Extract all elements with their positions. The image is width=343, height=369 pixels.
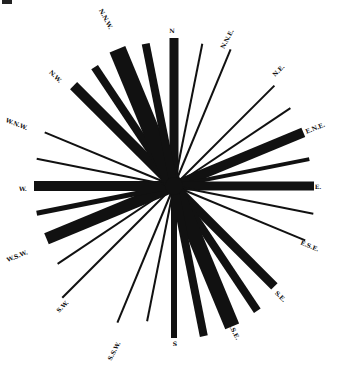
label-n: N <box>169 27 175 34</box>
label-sw: S.W. <box>55 299 70 314</box>
rose-center <box>165 177 183 195</box>
label-e: E. <box>315 183 322 190</box>
wind-ray-sbw <box>147 186 174 321</box>
wind-rays <box>34 38 314 338</box>
label-se: S.E. <box>274 289 288 303</box>
label-nnw: N.N.W. <box>98 7 115 30</box>
label-wsw: W.S.W. <box>5 248 29 263</box>
label-ne: N.E. <box>271 63 286 78</box>
label-wnw: W.N.W. <box>4 116 29 131</box>
label-ene: E.N.E. <box>304 121 326 135</box>
label-sse: S.S.E. <box>227 321 242 341</box>
label-nne: N.N.E. <box>219 28 235 50</box>
label-w: W. <box>18 185 27 192</box>
wind-rose-diagram: NN.N.E.N.E.E.N.E.E.E.S.E.S.E.S.S.E.SS.S.… <box>0 0 343 369</box>
label-s: S <box>173 340 177 347</box>
label-nw: N.W. <box>48 68 64 84</box>
label-ssw: S.S.W. <box>106 340 122 361</box>
label-ese: E.S.E. <box>300 239 321 253</box>
